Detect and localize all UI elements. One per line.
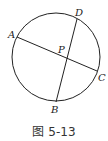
label-p: P <box>57 44 65 55</box>
circle <box>12 13 100 101</box>
chord-db <box>56 19 77 102</box>
label-c: C <box>98 72 106 83</box>
label-d: D <box>74 7 83 18</box>
chord-ac <box>17 37 97 71</box>
label-a: A <box>7 29 15 40</box>
geometry-figure: A D C B P <box>0 0 108 141</box>
label-b: B <box>50 104 58 115</box>
figure-caption: 图 5-13 <box>0 122 108 139</box>
